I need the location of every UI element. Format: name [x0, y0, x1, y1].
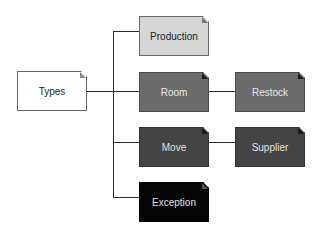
connector-root-trunk	[87, 91, 113, 92]
node-restock[interactable]: Restock	[235, 72, 305, 112]
node-label: Supplier	[252, 142, 289, 153]
node-exception[interactable]: Exception	[139, 182, 209, 222]
folded-corner-icon	[202, 183, 208, 189]
node-supplier[interactable]: Supplier	[235, 127, 305, 167]
node-label: Exception	[152, 197, 196, 208]
node-label: Production	[150, 31, 198, 42]
node-label: Room	[161, 87, 188, 98]
folded-corner-icon	[80, 72, 86, 78]
node-production[interactable]: Production	[139, 16, 209, 56]
node-room[interactable]: Room	[139, 72, 209, 112]
node-label: Restock	[252, 87, 288, 98]
folded-corner-icon	[202, 17, 208, 23]
folded-corner-icon	[298, 73, 304, 79]
connector-production	[113, 31, 139, 32]
node-label: Types	[39, 86, 66, 97]
folded-corner-icon	[202, 73, 208, 79]
folded-corner-icon	[202, 128, 208, 134]
connector-room	[113, 91, 139, 92]
connector-vertical-trunk	[113, 31, 114, 198]
connector-move-supplier	[209, 142, 235, 143]
connector-room-restock	[209, 91, 235, 92]
node-types[interactable]: Types	[17, 71, 87, 111]
node-move[interactable]: Move	[139, 127, 209, 167]
folded-corner-icon	[298, 128, 304, 134]
connector-exception	[113, 197, 139, 198]
node-label: Move	[162, 142, 186, 153]
connector-move	[113, 142, 139, 143]
